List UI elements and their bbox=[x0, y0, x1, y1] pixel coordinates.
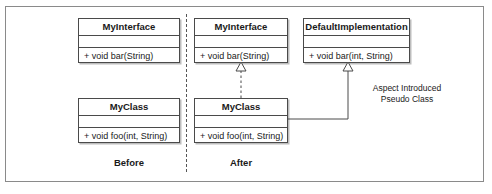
class-attributes-before-myinterface bbox=[79, 36, 179, 48]
class-name-before-myinterface: MyInterface bbox=[79, 19, 179, 36]
class-box-after-myinterface: MyInterface + void bar(String) bbox=[194, 18, 288, 63]
class-box-before-myclass: MyClass + void foo(int, String) bbox=[78, 98, 180, 143]
caption-after: After bbox=[194, 157, 288, 168]
class-box-after-myclass: MyClass + void foo(int, String) bbox=[194, 98, 288, 143]
class-box-after-defaultimplementation: DefaultImplementation + void bar(int, St… bbox=[303, 18, 410, 63]
annotation-aspect-introduced-pseudo-class: Aspect Introduced Pseudo Class bbox=[352, 83, 462, 104]
class-attributes-before-myclass bbox=[79, 116, 179, 128]
annotation-line-1: Aspect Introduced bbox=[352, 83, 462, 94]
class-operation-before-myclass: + void foo(int, String) bbox=[79, 128, 179, 144]
class-attributes-after-myclass bbox=[195, 116, 287, 128]
class-attributes-after-defaultimplementation bbox=[304, 36, 409, 48]
class-operation-after-myinterface: + void bar(String) bbox=[195, 48, 287, 64]
annotation-line-2: Pseudo Class bbox=[352, 94, 462, 105]
before-after-divider bbox=[186, 14, 187, 172]
caption-before: Before bbox=[78, 157, 180, 168]
class-name-after-myclass: MyClass bbox=[195, 99, 287, 116]
class-name-after-myinterface: MyInterface bbox=[195, 19, 287, 36]
class-operation-before-myinterface: + void bar(String) bbox=[79, 48, 179, 64]
uml-figure: MyInterface + void bar(String) MyClass +… bbox=[0, 0, 492, 194]
class-operation-after-myclass: + void foo(int, String) bbox=[195, 128, 287, 144]
class-name-before-myclass: MyClass bbox=[79, 99, 179, 116]
class-attributes-after-myinterface bbox=[195, 36, 287, 48]
class-operation-after-defaultimplementation: + void bar(int, String) bbox=[304, 48, 409, 64]
class-box-before-myinterface: MyInterface + void bar(String) bbox=[78, 18, 180, 63]
class-name-after-defaultimplementation: DefaultImplementation bbox=[304, 19, 409, 36]
